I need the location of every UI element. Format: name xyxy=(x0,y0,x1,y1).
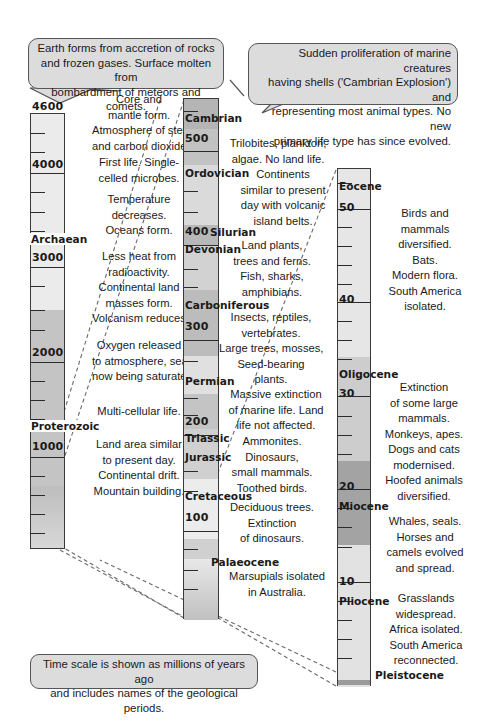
period-eocene: Eocene xyxy=(338,180,383,192)
period-proterozoic: Proterozoic xyxy=(30,420,100,432)
col3-label-10: 10 xyxy=(339,576,355,588)
note-trilobites: Trilobites, plankton,algae. No land life… xyxy=(228,136,328,167)
col2-label-500: 500 xyxy=(185,133,209,145)
note-multicellular: Multi-cellular life. xyxy=(92,404,186,420)
timeline-column-1 xyxy=(30,113,65,549)
note-birds-mammals: Birds andmammalsdiversified.Bats.Modern … xyxy=(380,206,470,315)
callout-time-line-1: Time scale is shown as millions of years… xyxy=(37,657,251,686)
period-archaean: Archaean xyxy=(30,233,88,245)
period-oligocene: Oligocene xyxy=(338,368,399,380)
note-continents-volcanic: Continentssimilar to presentday with vol… xyxy=(233,167,333,229)
period-palaeocene: Palaeocene xyxy=(210,556,280,568)
col3-label-30: 30 xyxy=(339,388,355,400)
note-land-plants: Land plants,trees and ferns.Fish, sharks… xyxy=(222,238,322,300)
note-oxygen: Oxygen releasedto atmosphere, seanow bei… xyxy=(92,338,186,385)
col2-label-200: 200 xyxy=(185,416,209,428)
col3-label-40: 40 xyxy=(339,294,355,306)
note-deciduous: Deciduous trees.Extinctionof dinosaurs. xyxy=(222,500,322,547)
period-cambrian: Cambrian xyxy=(184,112,243,124)
note-extinction-large-mammals: Extinctionof some largemammals.Monkeys, … xyxy=(378,380,470,504)
note-first-life: First life. Single-celled microbes. xyxy=(92,155,186,186)
col2-label-300: 300 xyxy=(185,321,209,333)
callout-earth-forms: Earth forms from accretion of rocks and … xyxy=(28,38,224,89)
col2-label-100: 100 xyxy=(185,512,209,524)
note-grasslands: Grasslandswidespread.Africa isolated.Sou… xyxy=(380,591,472,669)
period-pleistocene: Pleistocene xyxy=(374,669,445,681)
col1-label-2000: 2000 xyxy=(32,347,63,359)
col1-label-3000: 3000 xyxy=(32,252,63,264)
note-marsupials: Marsupials isolatedin Australia. xyxy=(225,569,329,600)
callout-earth-line-1: Earth forms from accretion of rocks xyxy=(35,41,217,56)
callout-cambrian-line-2: having shells ('Cambrian Explosion') and xyxy=(255,75,451,104)
note-massive-extinction: Massive extinctionof marine life. Landli… xyxy=(226,387,326,434)
col2-label-400: 400 xyxy=(185,226,209,238)
note-continental-land: Less heat fromradioactivity.Continental … xyxy=(92,249,186,327)
callout-cambrian-explosion: Sudden proliferation of marine creatures… xyxy=(248,43,458,105)
col1-label-4600: 4600 xyxy=(32,101,63,113)
note-core-mantle: Core andmantle form.Atmosphere of steama… xyxy=(92,92,186,154)
callout-cambrian-line-3: representing most animal types. No new xyxy=(255,104,451,133)
col3-label-50: 50 xyxy=(339,202,355,214)
col1-label-4000: 4000 xyxy=(32,159,63,171)
col1-label-1000: 1000 xyxy=(32,441,63,453)
col3-label-20: 20 xyxy=(339,481,355,493)
callout-earth-line-2: and frozen gases. Surface molten from xyxy=(35,56,217,85)
note-land-area: Land area similarto present day.Continen… xyxy=(92,437,186,499)
callout-time-scale: Time scale is shown as millions of years… xyxy=(30,654,258,689)
callout-time-line-2: and includes names of the geological per… xyxy=(37,686,251,715)
timeline-column-3 xyxy=(337,168,371,686)
note-dinosaurs: Ammonites.Dinosaurs,small mammals.Toothe… xyxy=(222,434,322,496)
note-oceans: Temperaturedecreases.Oceans form. xyxy=(92,192,186,239)
callout-cambrian-line-1: Sudden proliferation of marine creatures xyxy=(255,46,451,75)
note-whales-horses: Whales, seals.Horses andcamels evolvedan… xyxy=(380,514,470,576)
note-insects-reptiles: Insects, reptiles,vertebrates.Large tree… xyxy=(219,310,323,388)
